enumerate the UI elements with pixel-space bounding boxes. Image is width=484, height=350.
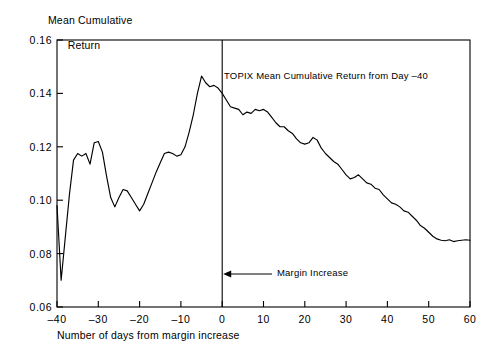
y-tick-label: 0.06 — [2, 301, 52, 313]
margin-increase-arrow — [223, 271, 272, 278]
margin-increase-label: Margin Increase — [277, 267, 348, 278]
x-tick-label: 30 — [340, 313, 353, 325]
y-tick-label: 0.10 — [2, 194, 52, 206]
y-tick-label: 0.14 — [2, 87, 52, 99]
y-tick-label: 0.12 — [2, 141, 52, 153]
x-tick-marks — [57, 301, 470, 307]
x-axis-title: Number of days from margin increase — [57, 329, 357, 341]
x-tick-label: 20 — [298, 313, 311, 325]
x-tick-label: 60 — [464, 313, 477, 325]
x-tick-label: 0 — [219, 313, 225, 325]
y-tick-label: 0.08 — [2, 248, 52, 260]
x-tick-label: –10 — [171, 313, 190, 325]
y-axis-title-line1: Mean Cumulative — [48, 14, 133, 26]
chart-figure: Mean Cumulative Return 0.060.080.100.120… — [0, 0, 484, 350]
x-tick-label: –40 — [47, 313, 66, 325]
x-tick-label: –30 — [89, 313, 108, 325]
series-annotation-label: TOPIX Mean Cumulative Return from Day –4… — [224, 70, 428, 81]
x-tick-label: 40 — [381, 313, 394, 325]
y-tick-label: 0.16 — [2, 34, 52, 46]
x-tick-label: 10 — [257, 313, 270, 325]
x-tick-label: –20 — [130, 313, 149, 325]
series-line-topix — [57, 76, 470, 280]
x-tick-label: 50 — [422, 313, 435, 325]
